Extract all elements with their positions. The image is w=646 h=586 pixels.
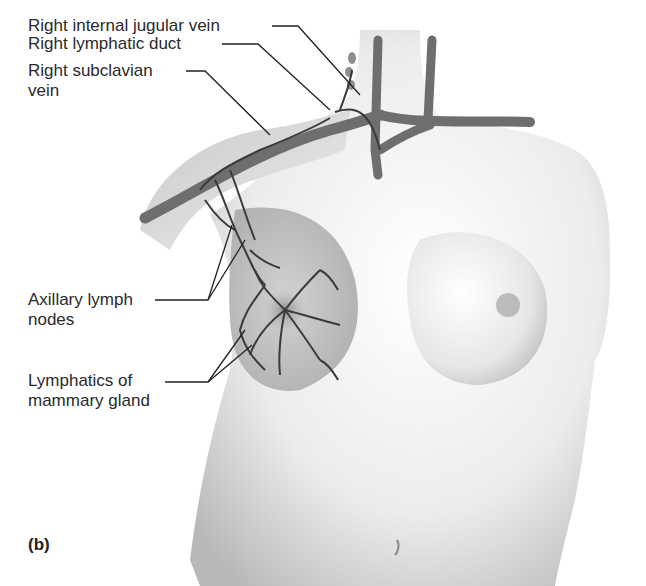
label-right-lymphatic-duct: Right lymphatic duct — [28, 34, 181, 54]
label-text: Right lymphatic duct — [28, 34, 181, 53]
label-text: Right internal jugular vein — [28, 16, 220, 35]
label-lymphatics-of-mammary-gland: Lymphatics of mammary gland — [28, 371, 150, 411]
label-text-line2: vein — [28, 81, 153, 101]
label-text-line1: Right subclavian — [28, 61, 153, 81]
panel-label: (b) — [28, 535, 50, 555]
anatomical-figure: Right internal jugular vein Right lympha… — [0, 0, 646, 586]
label-text-line1: Lymphatics of — [28, 371, 150, 391]
label-text-line2: nodes — [28, 310, 133, 330]
left-nipple — [496, 293, 520, 317]
label-right-internal-jugular-vein: Right internal jugular vein — [28, 16, 220, 36]
label-text-line2: mammary gland — [28, 391, 150, 411]
label-right-subclavian-vein: Right subclavian vein — [28, 61, 153, 101]
label-axillary-lymph-nodes: Axillary lymph nodes — [28, 290, 133, 330]
label-text-line1: Axillary lymph — [28, 290, 133, 310]
